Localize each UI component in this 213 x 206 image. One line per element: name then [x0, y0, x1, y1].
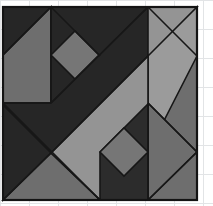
canvas-background [0, 0, 213, 206]
background-grid [0, 0, 213, 206]
quilt-block-canvas [0, 0, 213, 206]
